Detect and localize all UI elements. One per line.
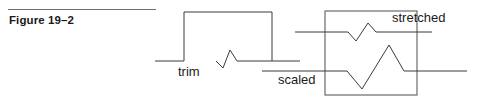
label-trim: trim [178,64,200,79]
stretched-waveform-path [295,23,432,41]
label-stretched: stretched [392,10,445,25]
trim-pulse-path [155,12,300,61]
trim-zigzag-path [216,50,272,68]
figure-container: Figure 19–2 trim scaled stretched [0,0,486,103]
label-scaled: scaled [278,72,316,87]
